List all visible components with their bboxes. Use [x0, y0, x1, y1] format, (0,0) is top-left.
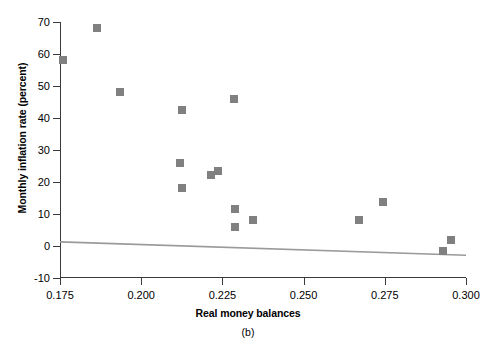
data-point — [59, 56, 67, 64]
y-tick-mark — [53, 214, 60, 215]
y-tick-mark — [53, 22, 60, 23]
y-tick-label: 60 — [38, 48, 50, 60]
y-tick-mark — [53, 86, 60, 87]
y-tick-label: 20 — [38, 176, 50, 188]
y-tick-label: 0 — [44, 240, 50, 252]
regression-line — [60, 22, 466, 278]
y-tick-label: 40 — [38, 112, 50, 124]
data-point — [116, 88, 124, 96]
x-axis-title: Real money balances — [0, 307, 496, 319]
data-point — [231, 205, 239, 213]
data-point — [249, 216, 257, 224]
x-tick-mark — [222, 278, 223, 285]
scatter-plot-figure: Monthly inflation rate (percent) -100102… — [0, 0, 496, 349]
x-tick-mark — [304, 278, 305, 285]
x-tick-label: 0.275 — [371, 289, 399, 301]
y-tick-mark — [53, 278, 60, 279]
data-point — [447, 236, 455, 244]
data-point — [230, 95, 238, 103]
y-tick-mark — [53, 246, 60, 247]
data-point — [231, 223, 239, 231]
data-point — [176, 159, 184, 167]
data-point — [379, 198, 387, 206]
x-tick-label: 0.250 — [290, 289, 318, 301]
x-tick-label: 0.225 — [209, 289, 237, 301]
data-point — [439, 247, 447, 255]
y-tick-label: 70 — [38, 16, 50, 28]
x-tick-label: 0.300 — [452, 289, 480, 301]
y-tick-mark — [53, 182, 60, 183]
y-axis-title: Monthly inflation rate (percent) — [12, 18, 32, 258]
y-tick-label: 50 — [38, 80, 50, 92]
x-tick-mark — [466, 278, 467, 285]
data-point — [355, 216, 363, 224]
y-tick-mark — [53, 54, 60, 55]
x-tick-mark — [60, 278, 61, 285]
y-tick-mark — [53, 150, 60, 151]
y-tick-label: 30 — [38, 144, 50, 156]
data-point — [93, 24, 101, 32]
data-point — [214, 167, 222, 175]
data-point — [178, 184, 186, 192]
y-tick-label: 10 — [38, 208, 50, 220]
x-tick-mark — [141, 278, 142, 285]
x-tick-mark — [385, 278, 386, 285]
panel-caption: (b) — [0, 326, 496, 338]
y-tick-mark — [53, 118, 60, 119]
y-tick-label: -10 — [34, 272, 50, 284]
plot-area: -10010203040506070 0.1750.2000.2250.2500… — [60, 22, 466, 278]
data-point — [178, 106, 186, 114]
x-tick-label: 0.175 — [46, 289, 74, 301]
x-tick-label: 0.200 — [127, 289, 155, 301]
